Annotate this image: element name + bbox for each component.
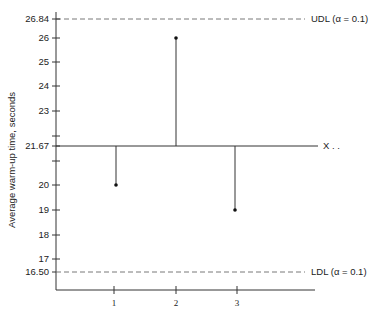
ldl-label: LDL (α = 0.1) — [311, 266, 367, 277]
y-tick-label: 17 — [38, 253, 49, 264]
udl-label: UDL (α = 0.1) — [311, 13, 368, 24]
y-tick-label: 26.84 — [25, 13, 49, 24]
y-tick-label: 24 — [38, 80, 49, 91]
data-point-2 — [174, 36, 178, 40]
data-point-1 — [114, 183, 118, 187]
x-ticks: 1 2 3 — [112, 286, 240, 308]
y-ticks: 26.84 26 25 24 23 21.67 20 19 18 17 16.5… — [25, 13, 60, 277]
y-tick-label: 21.67 — [25, 140, 49, 151]
center-label: X . . — [323, 140, 340, 151]
data-point-3 — [233, 208, 237, 212]
y-tick-label: 25 — [38, 56, 49, 67]
x-tick-label: 3 — [235, 298, 240, 308]
y-axis-label: Average warm-up time, seconds — [6, 92, 17, 228]
y-tick-label: 23 — [38, 105, 49, 116]
y-tick-label: 19 — [38, 204, 49, 215]
y-tick-label: 20 — [38, 179, 49, 190]
y-tick-label: 26 — [38, 32, 49, 43]
x-tick-label: 1 — [112, 298, 117, 308]
x-tick-label: 2 — [174, 298, 179, 308]
data-points — [114, 36, 237, 212]
y-tick-label: 18 — [38, 229, 49, 240]
y-tick-label: 16.50 — [25, 266, 49, 277]
anom-chart: UDL (α = 0.1) LDL (α = 0.1) X . . 26.84 … — [0, 0, 374, 321]
